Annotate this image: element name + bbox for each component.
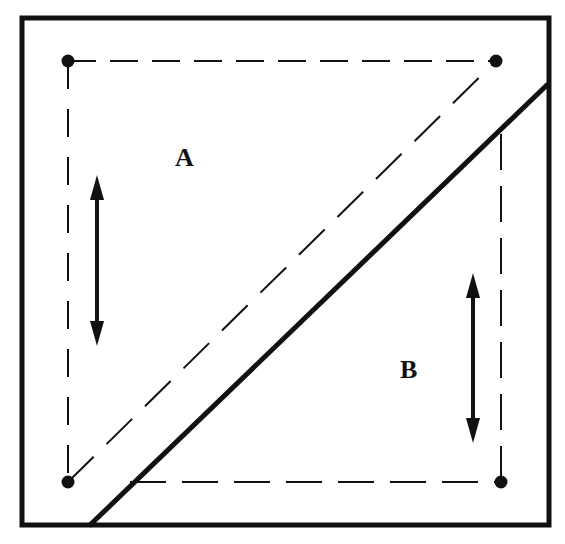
solid-diagonal — [89, 84, 548, 526]
region-label-a: A — [175, 145, 194, 171]
outer-square — [22, 18, 549, 525]
diagram-canvas — [0, 0, 565, 544]
corner-dot-bottom-left — [62, 476, 75, 489]
corner-dot-top-right — [490, 55, 503, 68]
region-label-b: B — [400, 357, 417, 383]
double-arrow-icon-b — [466, 273, 480, 443]
corner-dot-bottom-right — [495, 476, 508, 489]
double-arrow-icon-a — [90, 175, 104, 346]
corner-dot-top-left — [62, 55, 75, 68]
dashed-diagonal — [68, 61, 496, 482]
